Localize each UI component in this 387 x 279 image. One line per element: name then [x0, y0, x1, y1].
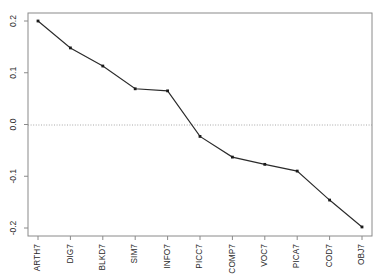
y-tick-label: 0.1: [8, 67, 18, 79]
x-tick-label: SIM7: [130, 244, 139, 264]
chart-container: 0.20.10.0-0.1-0.2 ARTH7DIG7BLKD7SIM7INFO…: [0, 0, 387, 279]
x-tick-label: COD7: [325, 244, 334, 267]
line-chart: 0.20.10.0-0.1-0.2 ARTH7DIG7BLKD7SIM7INFO…: [0, 0, 387, 279]
y-tick-label: -0.2: [8, 220, 18, 235]
data-point-marker: [69, 47, 72, 50]
data-point-marker: [296, 170, 299, 173]
data-point-marker: [231, 156, 234, 159]
data-point-marker: [263, 163, 266, 166]
x-tick-label: BLKD7: [98, 244, 107, 271]
y-tick-label: 0.0: [8, 118, 18, 130]
data-point-marker: [101, 65, 104, 68]
data-point-marker: [166, 89, 169, 92]
x-tick-label: ARTH7: [33, 244, 42, 272]
y-tick-label: 0.2: [8, 15, 18, 27]
x-tick-label: COMP7: [228, 244, 237, 274]
x-tick-label: PICC7: [195, 244, 204, 269]
data-point-marker: [199, 135, 202, 138]
plot-background: [0, 0, 387, 279]
x-tick-label: PICA7: [292, 244, 301, 269]
data-point-marker: [134, 87, 137, 90]
x-tick-label: VOC7: [260, 244, 269, 267]
x-tick-label: OBJ7: [357, 244, 366, 265]
data-point-marker: [328, 199, 331, 202]
x-tick-label: DIG7: [66, 244, 75, 264]
x-tick-label: INFO7: [163, 244, 172, 269]
data-point-marker: [361, 226, 364, 229]
y-tick-label: -0.1: [8, 169, 18, 184]
data-point-marker: [37, 20, 40, 23]
